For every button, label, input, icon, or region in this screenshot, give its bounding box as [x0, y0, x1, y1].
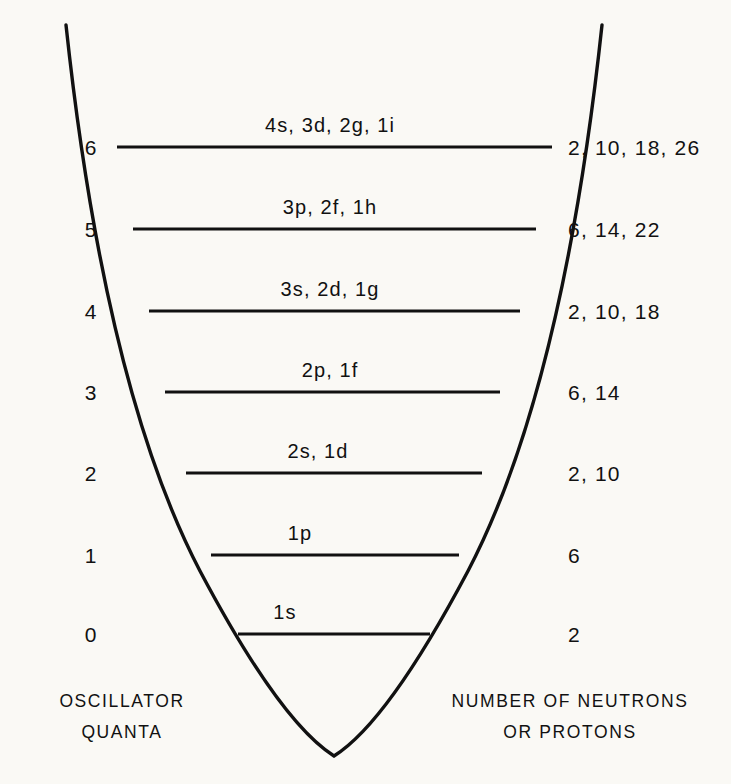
occupancy-label: 2, 10, 18 — [568, 301, 661, 322]
caption-oscillator-quanta: OSCILLATORQUANTA — [59, 693, 184, 741]
orbital-label: 3s, 2d, 1g — [281, 279, 380, 299]
oscillator-well-diagram: 6543210 4s, 3d, 2g, 1i3p, 2f, 1h3s, 2d, … — [0, 0, 731, 784]
occupancy-label: 6, 14, 22 — [568, 219, 661, 240]
quanta-tick-label: 3 — [0, 382, 97, 403]
occupancy-label: 6, 14 — [568, 382, 621, 403]
caption-right-line: NUMBER OF NEUTRONS — [452, 693, 689, 711]
occupancy-label: 2, 10, 18, 26 — [568, 137, 700, 158]
energy-level-lines — [117, 147, 552, 634]
quanta-tick-label: 6 — [0, 137, 97, 158]
orbital-label: 2p, 1f — [302, 360, 359, 380]
occupancy-label: 6 — [568, 545, 581, 566]
quanta-tick-label: 5 — [0, 219, 97, 240]
quanta-tick-label: 1 — [0, 545, 97, 566]
occupancy-label: 2 — [568, 624, 581, 645]
orbital-label: 3p, 2f, 1h — [283, 197, 377, 217]
orbital-label: 4s, 3d, 2g, 1i — [265, 115, 395, 135]
orbital-label: 1p — [288, 523, 312, 543]
quanta-tick-label: 2 — [0, 463, 97, 484]
orbital-label: 2s, 1d — [287, 441, 348, 461]
quanta-tick-label: 0 — [0, 624, 97, 645]
caption-left-line: OSCILLATOR — [59, 693, 184, 711]
occupancy-label: 2, 10 — [568, 463, 621, 484]
quanta-tick-label: 4 — [0, 301, 97, 322]
caption-left-line: QUANTA — [59, 724, 184, 742]
orbital-label: 1s — [273, 602, 296, 622]
caption-number-of-nucleons: NUMBER OF NEUTRONSOR PROTONS — [452, 693, 689, 741]
caption-right-line: OR PROTONS — [452, 724, 689, 742]
